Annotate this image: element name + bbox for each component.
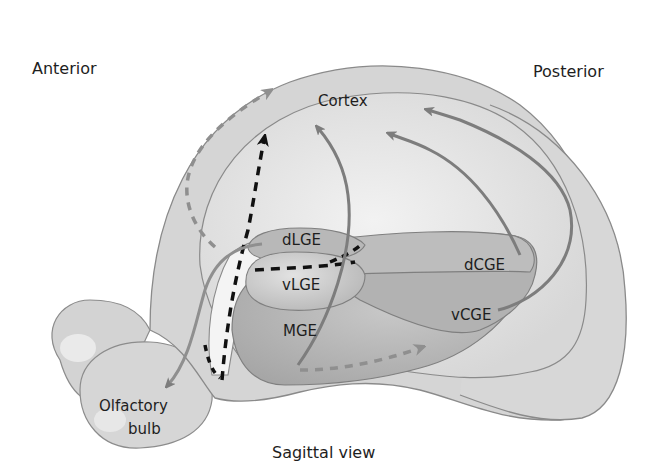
label-posterior: Posterior <box>533 62 604 81</box>
label-dlge: dLGE <box>282 231 321 249</box>
label-cortex: Cortex <box>318 92 368 110</box>
label-sagittal-view: Sagittal view <box>272 443 375 462</box>
label-vlge: vLGE <box>282 276 320 294</box>
label-vcge: vCGE <box>451 306 491 324</box>
label-dcge: dCGE <box>464 256 505 274</box>
brain-sagittal-diagram: Anterior Posterior Cortex dLGE vLGE MGE … <box>0 0 646 476</box>
label-bulb: bulb <box>128 420 161 438</box>
label-anterior: Anterior <box>32 59 97 78</box>
label-olfactory: Olfactory <box>99 397 168 415</box>
label-mge: MGE <box>283 322 317 340</box>
